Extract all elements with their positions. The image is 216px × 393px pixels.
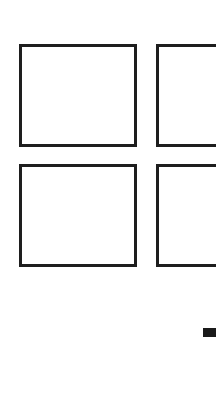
grid-tile-top-left[interactable] (19, 44, 137, 147)
grid-tile-bottom-left[interactable] (19, 164, 137, 267)
indicator-bar (203, 328, 216, 337)
screen (0, 0, 216, 393)
grid-tile-top-right[interactable] (156, 44, 216, 147)
grid-tile-bottom-right[interactable] (156, 164, 216, 267)
